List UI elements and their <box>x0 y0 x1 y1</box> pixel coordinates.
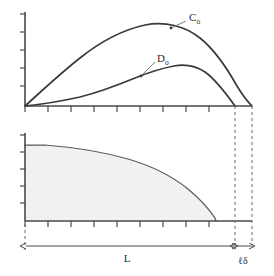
top-x-ticks <box>25 106 209 112</box>
label-c0-subscript: o <box>197 17 201 26</box>
dimension-label-L: L <box>124 252 131 264</box>
dimension-ld-group: ℓδ <box>236 246 251 266</box>
bottom-panel <box>20 133 252 227</box>
label-d0: D <box>157 52 165 64</box>
figure-container: C o D o <box>0 0 274 276</box>
dimension-label-ld: ℓδ <box>238 255 248 266</box>
bottom-x-ticks <box>25 221 209 227</box>
technical-figure: C o D o <box>0 0 274 276</box>
label-d0-group: D o <box>140 52 169 77</box>
curve-d0 <box>25 65 235 106</box>
label-d0-subscript: o <box>165 58 169 67</box>
top-panel: C o D o <box>20 11 252 112</box>
dimension-L-group: L <box>26 246 234 264</box>
leader-dot-c0 <box>170 27 173 30</box>
label-c0: C <box>189 11 196 23</box>
leader-dot-d0 <box>140 75 143 78</box>
curve-c0 <box>25 24 252 106</box>
label-c0-group: C o <box>170 11 201 29</box>
